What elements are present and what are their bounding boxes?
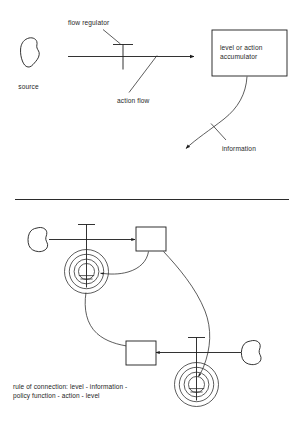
leader-information	[211, 124, 226, 141]
legend-panel: source flow regulator action flow level …	[18, 19, 287, 152]
label-flow-regulator: flow regulator	[68, 19, 110, 27]
loop-panel: rule of connection: level - information …	[13, 225, 261, 407]
leader-flow-regulator	[103, 30, 121, 45]
flow-regulator-valve-icon	[113, 45, 133, 70]
label-action-flow: action flow	[117, 97, 150, 104]
cloud-blob-icon-lower-right	[241, 340, 261, 364]
cloud-blob-icon-upper-left	[28, 227, 48, 251]
label-information: information	[222, 145, 256, 152]
label-accumulator-line1: level or action	[220, 44, 263, 51]
flow-regulator-valve-icon-upper	[78, 225, 95, 288]
diagram-root: source flow regulator action flow level …	[0, 0, 300, 427]
label-accumulator-line2: accumulator	[220, 53, 258, 60]
diagram-canvas: source flow regulator action flow level …	[0, 0, 300, 427]
cloud-blob-icon	[21, 38, 40, 67]
curved-information-arrow-icon	[186, 77, 247, 149]
curved-information-arrow-lower	[164, 252, 210, 377]
leader-action-flow	[129, 56, 157, 93]
loop-caption-line1: rule of connection: level - information …	[13, 383, 127, 390]
rectangle-level-icon-upper	[136, 227, 166, 251]
curved-action-flow-upper-to-lower	[85, 293, 130, 347]
curved-information-arrow-upper	[101, 252, 149, 275]
rectangle-level-icon-lower	[126, 341, 156, 365]
label-source: source	[18, 83, 39, 90]
loop-caption-line2: policy function - action - level	[13, 392, 100, 400]
